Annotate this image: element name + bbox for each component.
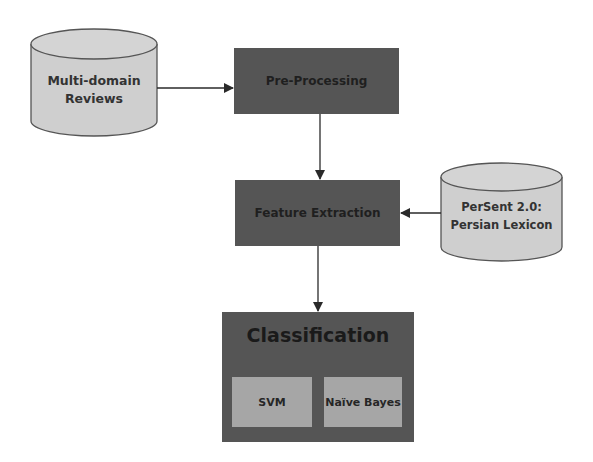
reviews-label-line2: Reviews [65,90,123,108]
lexicon-label-line2: Persian Lexicon [450,216,552,234]
lexicon-label: PerSent 2.0: Persian Lexicon [441,191,562,241]
feature-extraction-label: Feature Extraction [255,206,381,220]
lexicon-label-line1: PerSent 2.0: [461,198,542,216]
naive-bayes-label: Naïve Bayes [325,396,401,409]
preprocessing-box: Pre-Processing [234,48,399,114]
svm-label: SVM [258,396,285,409]
naive-bayes-box: Naïve Bayes [324,377,402,427]
feature-extraction-box: Feature Extraction [235,180,400,246]
classification-box: Classification SVM Naïve Bayes [222,312,414,442]
svm-box: SVM [232,377,312,427]
preprocessing-label: Pre-Processing [266,74,368,88]
classification-title: Classification [222,324,414,346]
reviews-label: Multi-domain Reviews [31,62,157,118]
reviews-label-line1: Multi-domain [47,72,140,90]
